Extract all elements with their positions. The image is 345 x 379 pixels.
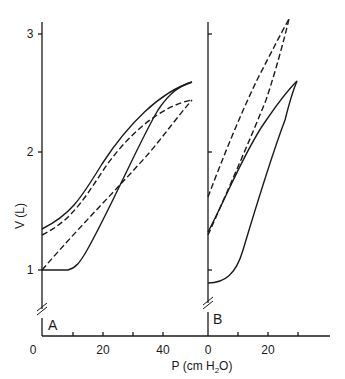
axes bbox=[37, 22, 330, 336]
y-axis-title: V (L) bbox=[13, 203, 27, 229]
panel-a-label: A bbox=[48, 317, 58, 333]
y-tick-label-1: 1 bbox=[27, 263, 34, 277]
panel-b-solid-lower-limb bbox=[208, 81, 297, 283]
x-tick-label-a-20: 20 bbox=[96, 343, 110, 357]
panel-a-solid-lower-limb bbox=[42, 82, 192, 270]
x-tick-label-a-40: 40 bbox=[156, 343, 170, 357]
y-tick-label-2: 2 bbox=[27, 145, 34, 159]
panel-b-dashed-upper-limb bbox=[208, 19, 289, 197]
panel-b-dashed-lower-limb bbox=[208, 19, 289, 235]
x-tick-label-b-20: 20 bbox=[261, 343, 275, 357]
panel-b-solid-upper-limb bbox=[208, 81, 297, 232]
panel-b-curves bbox=[208, 19, 297, 283]
y-tick-label-3: 3 bbox=[27, 27, 34, 41]
x-axis-title: P (cm H2O) bbox=[172, 359, 233, 375]
panel-a-dashed-lower-limb bbox=[42, 100, 192, 270]
panel-b-label: B bbox=[213, 311, 222, 327]
pressure-volume-chart: 3 2 1 V (L) A B 0 20 40 0 20 P (cm H2O) bbox=[0, 0, 345, 379]
panel-a-curves bbox=[42, 82, 192, 270]
x-tick-label-b-0: 0 bbox=[205, 343, 212, 357]
x-tick-label-a-0: 0 bbox=[30, 343, 37, 357]
panel-a-solid-upper-limb bbox=[42, 82, 192, 229]
